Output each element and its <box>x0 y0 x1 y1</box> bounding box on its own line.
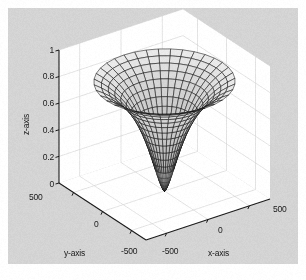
z-tick-label: 0.2 <box>26 153 54 162</box>
x-tick-label: -500 <box>162 247 178 256</box>
x-tick-label: 0 <box>218 226 223 235</box>
y-tick-label: 500 <box>29 193 43 202</box>
surface-plot-canvas <box>0 0 306 280</box>
z-tick-label: 0.8 <box>26 72 54 81</box>
y-tick-label: -500 <box>121 247 137 256</box>
y-tick-label: 0 <box>94 220 99 229</box>
z-tick-label: 1 <box>30 46 54 55</box>
z-axis-title: z-axis <box>22 114 31 135</box>
y-axis-title: y-axis <box>64 249 85 258</box>
z-tick-label: 0 <box>30 180 54 189</box>
figure-panel: 1 0.8 0.6 0.4 0.2 0 z-axis 500 0 -500 y-… <box>0 0 306 280</box>
x-axis-title: x-axis <box>208 249 229 258</box>
x-tick-label: 500 <box>273 205 287 214</box>
z-tick-label: 0.6 <box>26 99 54 108</box>
